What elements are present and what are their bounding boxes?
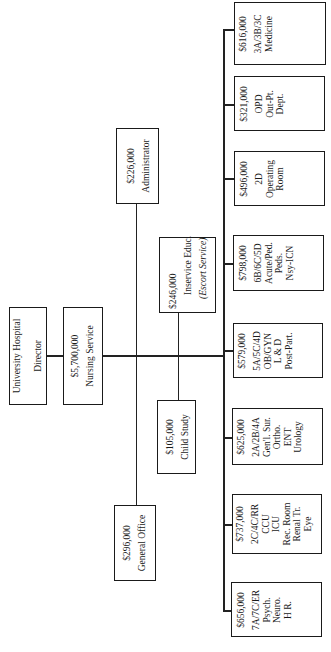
nursing-label: Nursing Service bbox=[85, 325, 96, 386]
unit-line: Gen'l. Sur. bbox=[261, 417, 272, 457]
unit-amount: $496,000 bbox=[238, 161, 249, 197]
general-office-label: General Office bbox=[137, 515, 148, 572]
unit-line: ENT bbox=[282, 427, 293, 445]
unit-amount: $579,000 bbox=[237, 333, 248, 369]
branch-tick bbox=[223, 104, 234, 106]
unit-line: H R. bbox=[282, 601, 293, 619]
branch-tick bbox=[223, 350, 233, 352]
unit-amount: $625,000 bbox=[235, 419, 246, 455]
inservice-amount: $246,000 bbox=[167, 273, 178, 309]
director-box: University Hospital Director bbox=[9, 307, 47, 405]
unit-line: Out-Pt. bbox=[264, 90, 275, 118]
unit-amount: $798,000 bbox=[237, 245, 248, 281]
branch-tick bbox=[223, 610, 231, 612]
unit-amount: $656,000 bbox=[235, 592, 246, 628]
unit-box-psych-neuro: $656,000 7A/7C/ER Psych. Neuro. H R. bbox=[231, 582, 322, 637]
nursing-amount: $5,700,000 bbox=[70, 335, 81, 378]
unit-box-opd: $321,000 OPD Out-Pt. Dept. bbox=[234, 76, 325, 131]
unit-line: Rec. Room bbox=[282, 503, 293, 546]
administrator-box: $226,000 Administrator bbox=[116, 128, 159, 204]
unit-line: Eye bbox=[303, 517, 314, 532]
general-office-box: $296,000 General Office bbox=[114, 505, 156, 581]
unit-line: 5A/5C/4D bbox=[252, 331, 263, 371]
inservice-label: Inservice Educ. bbox=[182, 236, 193, 309]
unit-amount: $737,000 bbox=[235, 506, 246, 542]
unit-line: Peds. bbox=[273, 253, 284, 273]
unit-line: Room bbox=[274, 167, 285, 190]
unit-line: Nsy-ICN bbox=[284, 246, 295, 281]
inservice-education-box: $246,000 Inservice Educ. (Escort Service… bbox=[159, 237, 216, 313]
unit-box-critical-care: $737,000 2C/4C/RR CCU ICU Rec. Room Rena… bbox=[232, 494, 322, 554]
unit-line: Medicine bbox=[264, 16, 275, 52]
branch-tick bbox=[223, 524, 232, 526]
unit-line: Post-Part. bbox=[284, 332, 295, 369]
unit-box-pediatrics: $798,000 6B/6C/5D Acute/Ped. Peds. Nsy-I… bbox=[233, 235, 324, 291]
unit-line: 3A/3B/3C bbox=[253, 14, 264, 53]
unit-amount: $616,000 bbox=[238, 16, 249, 52]
unit-line: OPD bbox=[253, 94, 264, 113]
branch-tick bbox=[223, 178, 234, 180]
unit-line: Ortho. bbox=[271, 424, 282, 449]
connector-nursing-spine bbox=[103, 355, 224, 357]
unit-line: OB/GYN bbox=[263, 332, 274, 368]
unit-line: L & D bbox=[273, 338, 284, 362]
unit-line: Renal Tr. bbox=[292, 507, 303, 542]
unit-box-obgyn: $579,000 5A/5C/4D OB/GYN L & D Post-Part… bbox=[233, 323, 323, 378]
connector-director-nursing bbox=[47, 355, 63, 357]
unit-line: 6B/6C/5D bbox=[252, 243, 263, 282]
child-study-label: Child Study bbox=[179, 414, 190, 460]
unit-line: Neuro. bbox=[271, 596, 282, 622]
unit-line: 2C/4C/RR bbox=[250, 504, 261, 544]
unit-box-operating-room: $496,000 2D Operating Room bbox=[234, 151, 325, 206]
nursing-service-box: $5,700,000 Nursing Service bbox=[63, 307, 103, 405]
unit-box-medicine: $616,000 3A/3B/3C Medicine bbox=[234, 2, 326, 65]
child-study-box: $105,000 Child Study bbox=[157, 400, 196, 474]
admin-amount: $226,000 bbox=[125, 148, 136, 184]
child-study-amount: $105,000 bbox=[164, 419, 175, 455]
unit-line: 2A/2B/4A bbox=[250, 417, 261, 457]
general-office-amount: $296,000 bbox=[122, 525, 133, 561]
unit-line: Dept. bbox=[274, 93, 285, 114]
director-title: University Hospital bbox=[12, 319, 23, 394]
connector-inservice-vertical bbox=[178, 313, 180, 400]
unit-line: Urology bbox=[292, 421, 303, 453]
unit-line: Acute/Ped. bbox=[263, 242, 274, 284]
unit-line: CCU bbox=[261, 514, 272, 534]
inservice-note: (Escort Service) bbox=[197, 238, 208, 309]
unit-box-surgery: $625,000 2A/2B/4A Gen'l. Sur. Ortho. ENT… bbox=[232, 408, 323, 465]
unit-amount: $321,000 bbox=[238, 86, 249, 122]
branch-tick bbox=[223, 29, 234, 31]
unit-line: ICU bbox=[271, 516, 282, 532]
branch-tick bbox=[223, 263, 233, 265]
branch-tick bbox=[223, 437, 232, 439]
admin-label: Administrator bbox=[140, 139, 151, 192]
director-role: Director bbox=[33, 340, 44, 372]
unit-line: Operating bbox=[264, 160, 275, 198]
connector-admin-vertical bbox=[136, 204, 138, 505]
unit-line: 2D bbox=[253, 173, 264, 185]
unit-line: 7A/7C/ER bbox=[250, 589, 261, 629]
unit-line: Psych. bbox=[261, 597, 272, 622]
